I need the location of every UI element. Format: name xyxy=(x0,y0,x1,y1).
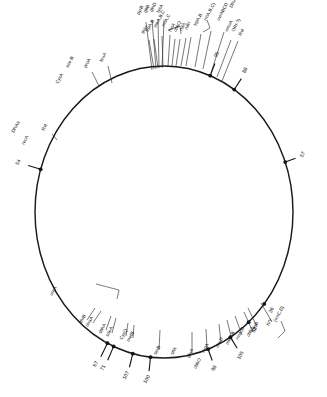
gene-leader-line-group xyxy=(52,19,272,353)
map-position-label-71: 71 xyxy=(98,363,106,371)
gene-leader-line-g-rrnABC xyxy=(203,31,211,69)
map-position-label-105: 105 xyxy=(235,350,244,360)
gene-leader-line-g-nifH xyxy=(186,37,191,66)
gene-label-cbbo: cbbO xyxy=(192,357,202,370)
map-position-label-100: 100 xyxy=(142,374,151,384)
circular-genetic-map-figure: DNAarecARvlace-BproAleuACysApyrBgltBglnD… xyxy=(0,0,327,397)
gene-label--rrnc-d-: (rrnC,D) xyxy=(272,305,285,323)
gene-leader-line-g-rrnA-top xyxy=(168,35,170,66)
gene-label-rrna-b-c-: rrnA,B,C) xyxy=(202,1,216,21)
map-position-tick xyxy=(210,64,215,76)
map-position-label-107: 107 xyxy=(121,370,130,380)
brace-group xyxy=(96,20,285,338)
gene-label-stla: stlA xyxy=(169,345,178,355)
map-position-tick xyxy=(285,158,295,162)
gene-leader-line-g-cbbQ xyxy=(176,39,180,66)
gene-label-dnaa: DNAa xyxy=(10,120,20,134)
gene-label-leua: leuA xyxy=(98,51,107,62)
map-position-tick xyxy=(108,346,114,360)
map-position-tick xyxy=(28,166,40,170)
brace-bot-right xyxy=(278,321,285,338)
map-position-tick xyxy=(149,357,150,371)
gene-label-urea: ureA xyxy=(48,285,57,297)
genetic-map-canvas: DNAarecARvlace-BproAleuACysApyrBgltBglnD… xyxy=(0,0,327,397)
gene-leader-line-g-dnaA-bot xyxy=(93,311,101,323)
gene-label-cysa: CysA xyxy=(54,71,64,84)
map-position-marker-dot xyxy=(262,302,266,306)
gene-label-uvrabcd: uvrABCD xyxy=(215,1,229,21)
map-position-label-95: 95 xyxy=(212,50,220,58)
map-position-tick xyxy=(129,354,132,368)
map-position-label-36: 36 xyxy=(267,306,275,314)
map-position-label-54: 54 xyxy=(14,158,22,166)
gene-label-rvl: Rvl xyxy=(40,123,48,131)
map-position-tick xyxy=(234,79,241,90)
gene-label-nifh: nifH xyxy=(183,21,191,31)
gene-label-rvl: Rvl xyxy=(237,28,245,36)
genome-circle-group xyxy=(35,66,293,358)
gene-label-ace-b: ace-B xyxy=(64,55,74,68)
gene-label-glua: gluA xyxy=(185,347,194,358)
gene-leader-line-g-trpAB2 xyxy=(195,34,201,67)
gene-leader-line-g-glnD xyxy=(158,19,159,68)
map-position-label-98: 98 xyxy=(210,364,218,372)
gene-label-reca: recA xyxy=(20,134,29,146)
brace-bot-left xyxy=(96,284,119,299)
gene-label-rrna-d: rrnA,D xyxy=(234,326,245,341)
gene-leader-line-g-ori xyxy=(222,41,238,81)
gene-leader-line-g-proA xyxy=(92,72,99,86)
map-position-label-57: 57 xyxy=(298,150,306,158)
map-position-label-67: 67 xyxy=(91,360,99,368)
genome-circle xyxy=(35,66,293,358)
gene-label-serb: serB xyxy=(152,345,161,356)
map-position-tick xyxy=(208,349,212,360)
gene-leader-line-g-nifA xyxy=(181,38,186,66)
map-position-tick xyxy=(101,343,108,356)
gene-label-group: DNAarecARvlace-BproAleuACysApyrBgltBglnD… xyxy=(10,0,285,369)
gene-label-dnaa: DNAa xyxy=(228,0,238,8)
gene-leader-line-g-umuA xyxy=(217,40,231,77)
gene-leader-line-g-sdeA xyxy=(112,318,116,333)
gene-label-proa: proA xyxy=(82,57,91,69)
gene-leader-line-g-hisA xyxy=(172,39,175,66)
map-position-label-88: 88 xyxy=(240,66,248,74)
